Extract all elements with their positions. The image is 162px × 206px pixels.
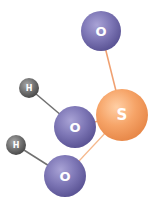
atom-label: H [13,141,20,150]
atom-label: O [59,169,70,184]
atom-hydrogen-top: H [19,78,39,98]
atom-label: S [117,106,128,124]
atom-oxygen-top: O [81,11,121,51]
atom-label: H [26,84,33,93]
atom-hydrogen-bottom: H [6,135,26,155]
molecule-diagram: O O S O H H [0,0,162,206]
atom-sulfur: S [96,89,148,141]
atom-label: O [95,24,106,39]
atom-label: O [69,120,80,135]
atom-oxygen-bottom: O [44,155,86,197]
atom-oxygen-middle: O [54,106,96,148]
